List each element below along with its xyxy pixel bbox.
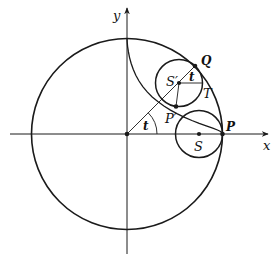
label-p: P (225, 120, 236, 134)
angle-arc-origin (148, 113, 157, 134)
label-s-prime: S′ (166, 74, 178, 89)
point-q (193, 64, 198, 69)
label-p-prime: P′ (164, 111, 177, 126)
x-axis-label: x (263, 138, 271, 153)
label-t: T (203, 86, 213, 101)
label-angle-t-origin: t (143, 119, 149, 133)
point-p (220, 132, 225, 137)
point-p-prime (174, 104, 179, 109)
radius-line-oq (127, 66, 195, 134)
y-axis-label: y (112, 8, 121, 23)
label-s: S (194, 139, 203, 154)
label-angle-t-rolling: t (189, 70, 195, 84)
hypocycloid-diagram: x y P Q S S′ P′ T t t (0, 0, 276, 256)
point-origin (125, 132, 130, 137)
point-s (197, 132, 201, 136)
label-q: Q (201, 54, 212, 68)
